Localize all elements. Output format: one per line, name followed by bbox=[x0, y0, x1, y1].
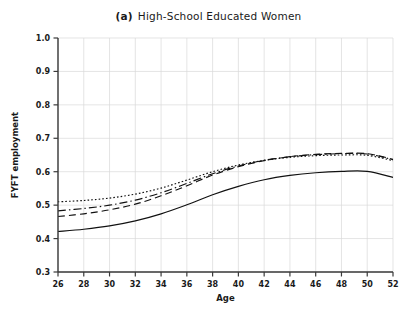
x-tick-label: 36 bbox=[181, 280, 193, 289]
x-axis-label: Age bbox=[216, 293, 235, 303]
x-tick-label: 52 bbox=[387, 280, 398, 289]
line-chart: 26283032343638404244464850521.00.90.80.7… bbox=[0, 0, 417, 315]
x-tick-label: 50 bbox=[362, 280, 374, 289]
y-tick-label: 1.0 bbox=[36, 34, 51, 43]
y-tick-label: 0.8 bbox=[36, 101, 51, 110]
data-series-layer bbox=[58, 153, 393, 231]
x-tick-label: 48 bbox=[336, 280, 348, 289]
x-tick-label: 32 bbox=[130, 280, 141, 289]
y-tick-label: 0.9 bbox=[36, 67, 51, 76]
x-tick-label: 44 bbox=[284, 280, 296, 289]
x-tick-label: 30 bbox=[104, 280, 116, 289]
x-tick-label: 38 bbox=[207, 280, 219, 289]
x-tick-label: 34 bbox=[156, 280, 168, 289]
data-line-dotted bbox=[58, 155, 393, 202]
x-tick-label: 42 bbox=[259, 280, 270, 289]
x-tick-label: 28 bbox=[78, 280, 90, 289]
x-tick-label: 40 bbox=[233, 280, 245, 289]
data-line-dashed bbox=[58, 153, 393, 216]
y-tick-label: 0.5 bbox=[36, 201, 51, 210]
y-axis-label: FYFT employment bbox=[10, 112, 20, 198]
y-tick-label: 0.7 bbox=[36, 134, 50, 143]
axis-labels-layer: 26283032343638404244464850521.00.90.80.7… bbox=[10, 34, 399, 303]
figure-container: (a)High-School Educated Women 2628303234… bbox=[0, 0, 417, 315]
y-tick-label: 0.4 bbox=[36, 235, 51, 244]
y-tick-label: 0.6 bbox=[36, 168, 51, 177]
x-tick-label: 46 bbox=[310, 280, 322, 289]
data-line-dashdot bbox=[58, 153, 393, 210]
data-line-solid bbox=[58, 171, 393, 232]
x-tick-label: 26 bbox=[52, 280, 64, 289]
y-tick-label: 0.3 bbox=[36, 268, 50, 277]
axes-layer bbox=[54, 38, 394, 277]
